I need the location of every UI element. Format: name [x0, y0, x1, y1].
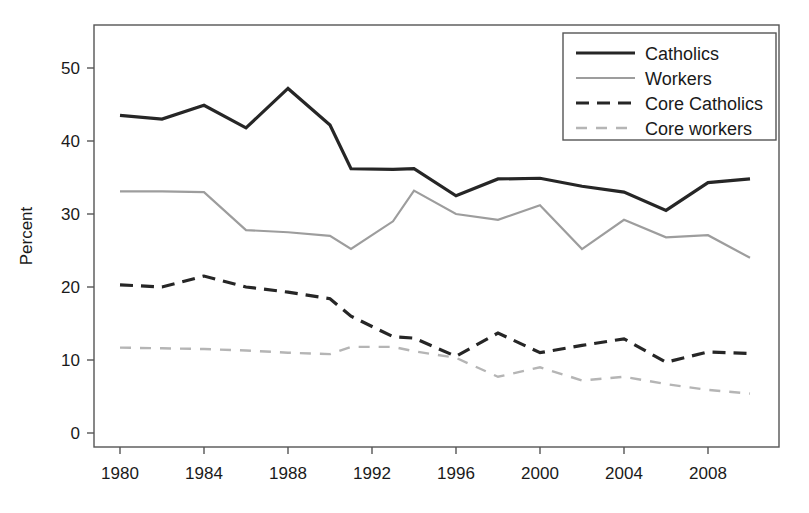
legend-label: Catholics	[645, 44, 719, 64]
y-tick-label: 30	[61, 205, 80, 224]
legend: CatholicsWorkersCore CatholicsCore worke…	[563, 33, 776, 140]
series-line-core-catholics	[120, 276, 750, 362]
y-tick-label: 50	[61, 59, 80, 78]
series-line-core-workers	[120, 347, 750, 394]
x-tick-label: 1988	[269, 464, 307, 483]
y-tick-label: 10	[61, 351, 80, 370]
series-line-workers	[120, 191, 750, 258]
x-tick-label: 2004	[605, 464, 643, 483]
x-tick-label: 1992	[353, 464, 391, 483]
y-tick-label: 40	[61, 132, 80, 151]
x-tick-label: 2008	[689, 464, 727, 483]
y-tick-label: 20	[61, 278, 80, 297]
legend-label: Core workers	[645, 119, 752, 139]
x-tick-label: 2000	[521, 464, 559, 483]
y-tick-label: 0	[71, 424, 80, 443]
y-axis-title: Percent	[17, 206, 36, 265]
legend-label: Core Catholics	[645, 94, 763, 114]
line-chart: 5040302010019801984198819921996200020042…	[0, 0, 809, 513]
chart-container: 5040302010019801984198819921996200020042…	[0, 0, 809, 513]
x-tick-label: 1984	[185, 464, 223, 483]
x-tick-label: 1980	[101, 464, 139, 483]
legend-label: Workers	[645, 69, 712, 89]
x-tick-label: 1996	[437, 464, 475, 483]
